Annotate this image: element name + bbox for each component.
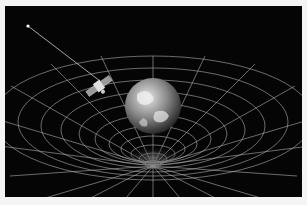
illustration-frame [5,6,302,197]
satellite [85,74,116,102]
star-icon [26,24,29,27]
light-beam [26,24,100,81]
spacetime-illustration [5,6,302,197]
funnel-glow [123,146,183,170]
earth [125,78,181,134]
